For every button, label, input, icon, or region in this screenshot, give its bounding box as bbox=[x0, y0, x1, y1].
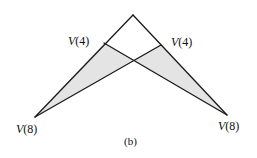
label-right-bottom: V(8) bbox=[218, 119, 239, 133]
right-shaded-region bbox=[133, 45, 227, 115]
label-left-mid-arg: (4) bbox=[75, 34, 89, 48]
label-right-mid-arg: (4) bbox=[178, 35, 192, 49]
figure-caption: (b) bbox=[124, 135, 137, 148]
left-shaded-region bbox=[35, 43, 133, 117]
label-right-bottom-arg: (8) bbox=[225, 119, 239, 133]
label-left-bottom: V(8) bbox=[16, 122, 37, 136]
vertex-diagram: V(4) V(4) V(8) V(8) (b) bbox=[0, 0, 257, 158]
label-right-mid: V(4) bbox=[171, 35, 192, 49]
label-left-bottom-arg: (8) bbox=[23, 122, 37, 136]
label-left-mid: V(4) bbox=[68, 34, 89, 48]
